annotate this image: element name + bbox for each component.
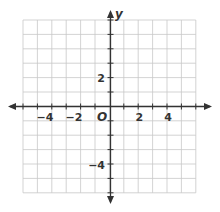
y-tick-label-neg4: −4 xyxy=(88,159,105,172)
x-tick-label-neg4: −4 xyxy=(37,111,54,124)
y-axis-arrow-up xyxy=(107,10,114,18)
y-tick-label-2: 2 xyxy=(97,72,105,85)
x-axis-arrow-right xyxy=(204,103,212,110)
y-axis-label: y xyxy=(115,7,124,21)
x-tick-label-neg2: −2 xyxy=(66,111,83,124)
x-tick-label-2: 2 xyxy=(135,111,143,124)
origin-label: O xyxy=(97,110,107,124)
y-axis-arrow-down xyxy=(107,196,114,204)
x-axis-arrow-left xyxy=(8,103,16,110)
coordinate-plane: y O −4 −2 2 4 2 −4 xyxy=(0,0,220,212)
x-tick-label-4: 4 xyxy=(164,111,172,124)
